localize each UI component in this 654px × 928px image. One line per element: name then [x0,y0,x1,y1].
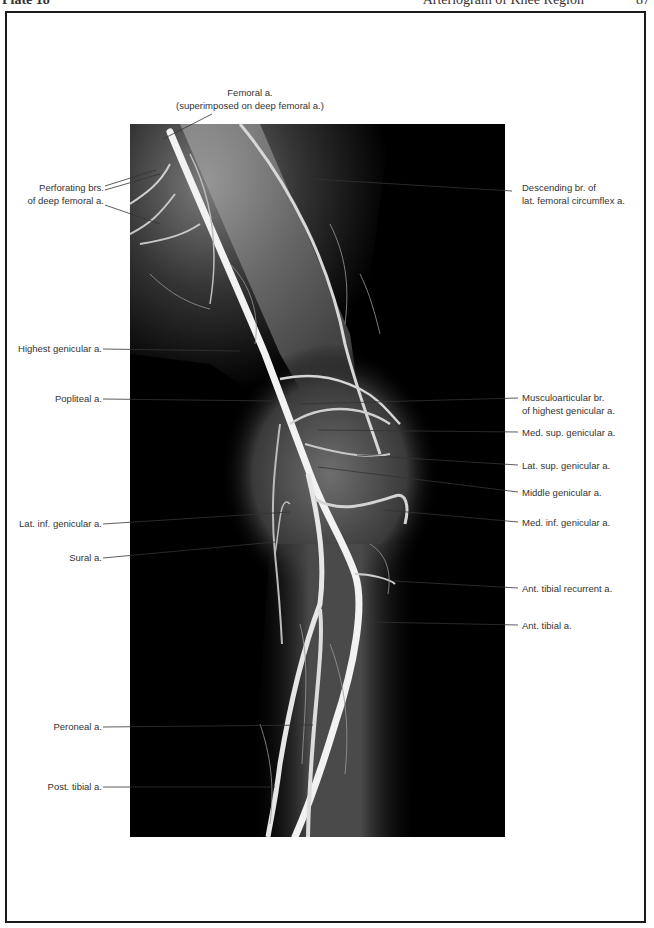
label-middle-genicular: Middle genicular a. [522,486,602,499]
label-popliteal: Popliteal a. [55,392,102,405]
label-med-inf-genicular: Med. inf. genicular a. [522,516,610,529]
label-line: Perforating brs. [27,181,104,194]
label-line: Descending br. of [522,181,625,194]
label-ant-tibial: Ant. tibial a. [522,619,572,632]
label-line: (superimposed on deep femoral a.) [150,99,350,112]
label-lat-sup-genicular: Lat. sup. genicular a. [522,459,610,472]
label-post-tibial: Post. tibial a. [48,780,102,793]
label-descending-branch: Descending br. of lat. femoral circumfle… [522,181,625,207]
label-perforating-branches: Perforating brs. of deep femoral a. [27,181,104,207]
label-musculoarticular: Musculoarticular br. of highest genicula… [522,391,615,417]
label-line: of highest genicular a. [522,404,615,417]
label-line: of deep femoral a. [27,194,104,207]
leader-femoral [163,114,212,139]
label-med-sup-genicular: Med. sup. genicular a. [522,426,615,439]
label-sural: Sural a. [69,551,102,564]
label-peroneal: Peroneal a. [53,720,102,733]
label-line: Musculoarticular br. [522,391,615,404]
label-lat-inf-genicular: Lat. inf. genicular a. [19,517,102,530]
label-femoral-artery: Femoral a. (superimposed on deep femoral… [150,86,350,112]
label-highest-genicular: Highest genicular a. [18,342,102,355]
label-ant-tibial-recurrent: Ant. tibial recurrent a. [522,582,612,595]
label-line: Femoral a. [150,86,350,99]
label-line: lat. femoral circumflex a. [522,194,625,207]
